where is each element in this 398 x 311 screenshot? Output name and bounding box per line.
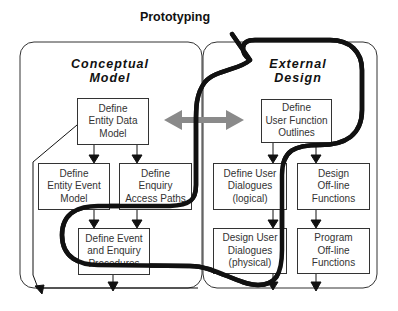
box-label: Define User Dialogues (logical) xyxy=(224,168,277,206)
box-define-user-function-outlines: Define User Function Outlines xyxy=(261,99,332,143)
box-label: Define Entity Data Model xyxy=(89,103,138,141)
box-program-offline-functions: Program Off-line Functions xyxy=(297,228,370,274)
prototyping-title: Prototyping xyxy=(120,10,230,24)
box-design-offline-functions: Design Off-line Functions xyxy=(297,163,370,210)
double-arrow-icon xyxy=(164,110,244,130)
box-label: Define User Function Outlines xyxy=(265,102,327,140)
external-design-title: External Design xyxy=(248,57,348,85)
box-label: Define Event and Enquiry Procedures xyxy=(85,233,142,271)
box-define-entity-data-model: Define Entity Data Model xyxy=(77,98,149,145)
box-define-event-enquiry-procedures: Define Event and Enquiry Procedures xyxy=(78,228,150,275)
box-label: Program Off-line Functions xyxy=(312,232,355,270)
box-label: Define Entity Event Model xyxy=(47,168,100,206)
box-design-user-dialogues-physical: Design User Dialogues (physical) xyxy=(213,228,287,274)
conceptual-model-title: Conceptual Model xyxy=(60,57,160,85)
box-define-enquiry-access-paths: Define Enquiry Access Paths xyxy=(119,163,192,210)
box-define-entity-event-model: Define Entity Event Model xyxy=(38,163,110,210)
diagram-canvas: Prototyping Conceptual Model External De… xyxy=(0,0,398,311)
box-label: Design Off-line Functions xyxy=(312,168,355,206)
box-label: Define Enquiry Access Paths xyxy=(125,168,186,206)
box-define-user-dialogues-logical: Define User Dialogues (logical) xyxy=(213,163,287,210)
box-label: Design User Dialogues (physical) xyxy=(222,232,277,270)
